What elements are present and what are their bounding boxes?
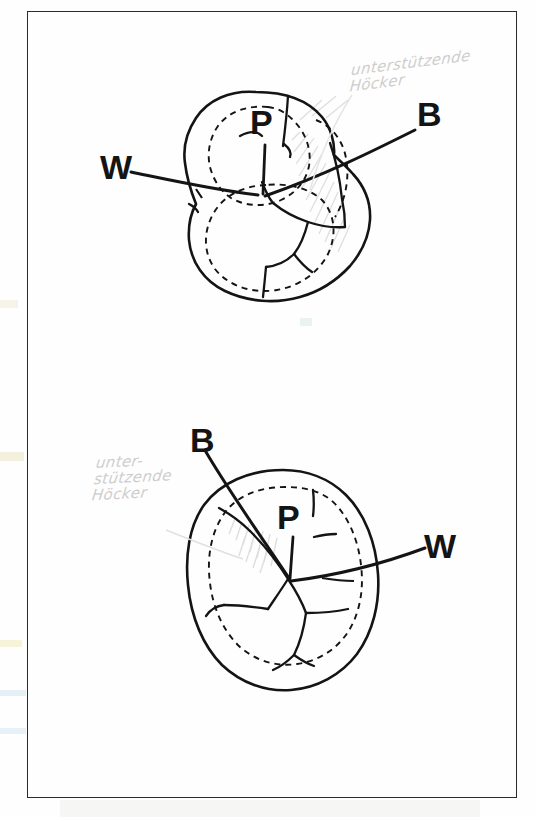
lower-label-w: W (424, 529, 456, 563)
scan-artifact (0, 728, 26, 734)
lower-label-p: P (277, 500, 300, 534)
lower-label-b: B (190, 423, 215, 457)
upper-label-b: B (417, 97, 442, 131)
scan-artifact (0, 640, 22, 647)
lower-pencil-annotation: unter- stützende Höcker (91, 451, 175, 504)
upper-label-p: P (250, 105, 273, 139)
scan-artifact (60, 800, 480, 817)
scan-artifact (0, 300, 18, 308)
page-canvas: W P B B P W unterstützende Höcker unter-… (0, 0, 536, 817)
scan-artifact (0, 690, 26, 696)
scan-artifact (0, 452, 24, 461)
upper-label-w: W (100, 150, 132, 184)
